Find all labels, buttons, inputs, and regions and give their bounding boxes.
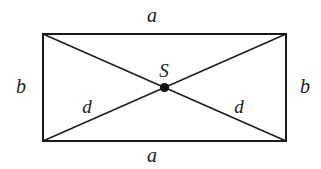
label-side-b-left: b [16, 76, 26, 96]
label-side-a-top: a [147, 5, 157, 25]
geometry-figure: a a b b d d S [0, 0, 321, 169]
label-side-b-right: b [300, 76, 310, 96]
label-center-point-s: S [159, 61, 169, 80]
label-side-a-bottom: a [147, 145, 157, 165]
label-diagonal-d-left: d [82, 97, 92, 116]
center-point-marker [160, 83, 169, 92]
label-diagonal-d-right: d [234, 97, 244, 116]
figure-canvas [0, 0, 321, 169]
